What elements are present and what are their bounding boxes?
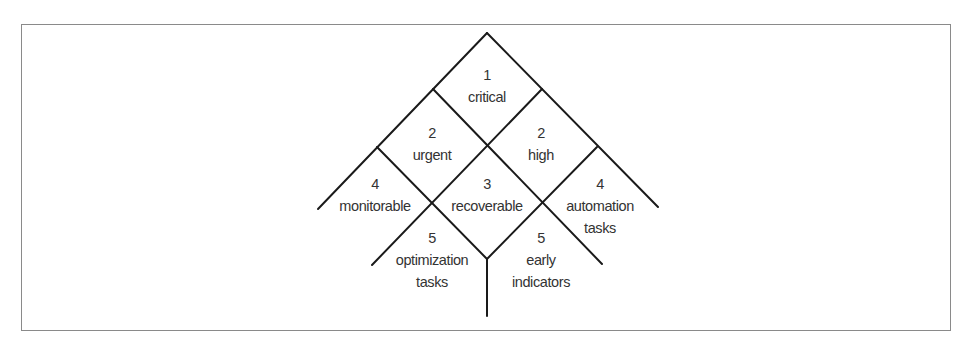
- cell-level: 1: [468, 64, 506, 86]
- cell-automation-tasks: 4 automation tasks: [566, 173, 634, 239]
- cell-level: 4: [566, 173, 634, 195]
- cell-level: 3: [451, 173, 522, 195]
- cell-monitorable: 4 monitorable: [339, 173, 410, 217]
- cell-text: critical: [468, 86, 506, 108]
- cell-text: optimization: [396, 249, 469, 271]
- cell-text: recoverable: [451, 195, 522, 217]
- cell-text: monitorable: [339, 195, 410, 217]
- cell-text: early: [512, 249, 570, 271]
- cell-level: 2: [528, 122, 554, 144]
- cell-recoverable: 3 recoverable: [451, 173, 522, 217]
- cell-critical: 1 critical: [468, 64, 506, 108]
- cell-text: tasks: [396, 271, 469, 293]
- cell-early-indicators: 5 early indicators: [512, 227, 570, 293]
- cell-high: 2 high: [528, 122, 554, 166]
- cell-level: 4: [339, 173, 410, 195]
- cell-text: urgent: [413, 144, 452, 166]
- cell-text: tasks: [566, 217, 634, 239]
- cell-text: high: [528, 144, 554, 166]
- cell-urgent: 2 urgent: [413, 122, 452, 166]
- cell-text: indicators: [512, 271, 570, 293]
- cell-level: 5: [512, 227, 570, 249]
- cell-level: 2: [413, 122, 452, 144]
- cell-level: 5: [396, 227, 469, 249]
- cell-optimization-tasks: 5 optimization tasks: [396, 227, 469, 293]
- cell-text: automation: [566, 195, 634, 217]
